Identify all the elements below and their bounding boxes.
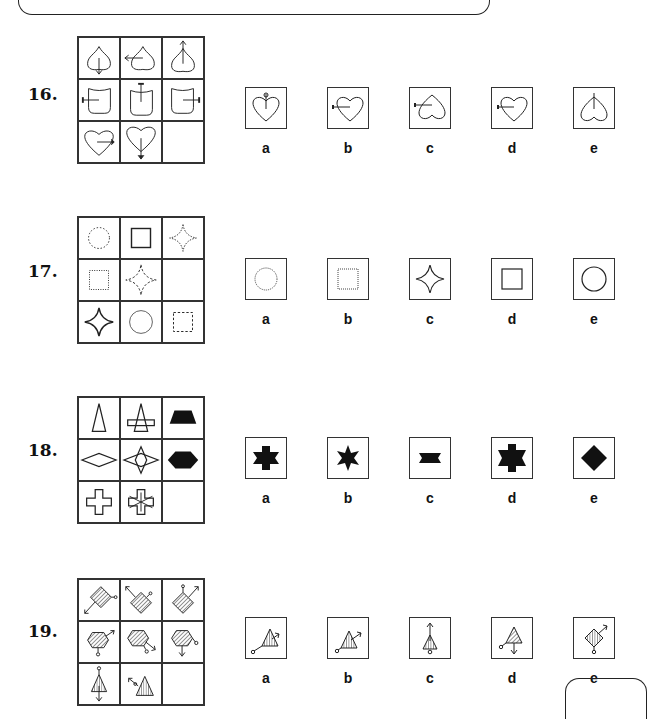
black-trapezoid-icon [162,397,204,439]
dotted-square-icon [78,259,120,301]
black-diamond-icon [577,441,611,475]
top-frame-border [18,0,490,15]
black-hexagon-icon [162,439,204,481]
question-number-16: 16. [28,84,58,104]
option-19-e[interactable]: e [573,617,615,686]
heart-arrow-left-icon [331,91,365,125]
hatched-hexagon-arrow-se-icon [120,621,162,663]
black-cross-star-icon [249,441,283,475]
dashed-star-icon [120,259,162,301]
heart-arrow-left-small-icon [495,91,529,125]
option-18-a[interactable]: a [245,437,287,506]
hatched-hexagon-arrow-s-icon [162,621,204,663]
option-label: c [409,140,451,156]
inverted-heart-arrow-up-icon [577,91,611,125]
option-label: d [491,490,533,506]
option-label: b [327,490,369,506]
option-label: d [491,311,533,327]
option-label: b [327,140,369,156]
heart-arrow-down-icon [120,121,162,163]
option-label: c [409,311,451,327]
hatched-triangle-arrow-nw-icon [120,663,162,705]
question-18-grid [77,396,205,524]
option-label: c [409,490,451,506]
spade-arrow-left-icon [120,37,162,79]
option-label: c [409,670,451,686]
option-label: a [245,140,287,156]
option-label: e [573,140,615,156]
hatched-diamond-arrow-nw-icon [120,579,162,621]
option-label: b [327,670,369,686]
question-19-grid [77,578,205,706]
option-label: d [491,140,533,156]
dashed-square-icon [162,301,204,343]
empty-cell [162,663,204,705]
question-number-17: 17. [28,261,58,281]
dotted-star-icon [162,217,204,259]
hatched-triangle-circle-sw-icon [249,621,283,655]
option-17-a[interactable]: a [245,258,287,327]
cross-outline-icon [78,481,120,523]
hatched-diamond-arrow-sw-icon [78,579,120,621]
option-16-a[interactable]: a [245,87,287,156]
spade-arrow-down-icon [78,37,120,79]
spade-arrow-up-icon [162,37,204,79]
option-17-e[interactable]: e [573,258,615,327]
black-cross-star-large-icon [495,441,529,475]
hatched-diamond-arrow-ne-icon [162,579,204,621]
cross-with-star-icon [120,481,162,523]
heart-arrow-up-icon [249,91,283,125]
option-16-c[interactable]: c [409,87,451,156]
solid-square-icon [495,262,529,296]
shield-arrow-up-icon [120,79,162,121]
question-number-19: 19. [28,621,58,641]
option-17-c[interactable]: c [409,258,451,327]
dotted-square-icon [331,262,365,296]
option-18-c[interactable]: c [409,437,451,506]
option-label: e [573,490,615,506]
heart-arrow-right-icon [78,121,120,163]
diamond-with-star-icon [120,439,162,481]
hatched-diamond-arrow-ne-icon [577,621,611,655]
empty-cell [162,121,204,163]
hatched-triangle-arrow-ne-icon [331,621,365,655]
option-label: d [491,670,533,686]
diag-hatched-triangle-arrow-down-icon [495,621,529,655]
option-label: a [245,670,287,686]
option-label: b [327,311,369,327]
question-16-grid [77,36,205,164]
solid-circle-icon [577,262,611,296]
black-bowtie-bar-icon [413,441,447,475]
option-18-e[interactable]: e [573,437,615,506]
triangle-outline-icon [78,397,120,439]
solid-star-icon [78,301,120,343]
dotted-circle-icon [249,262,283,296]
option-label: a [245,490,287,506]
option-17-d[interactable]: d [491,258,533,327]
option-label: e [573,311,615,327]
question-number-18: 18. [28,440,58,460]
solid-star-icon [413,262,447,296]
shield-arrow-right-icon [162,79,204,121]
hatched-triangle-arrow-s-icon [78,663,120,705]
question-17-grid [77,216,205,344]
hatched-triangle-arrow-up-icon [413,621,447,655]
option-18-d[interactable]: d [491,437,533,506]
option-19-c[interactable]: c [409,617,451,686]
option-16-d[interactable]: d [491,87,533,156]
thin-circle-icon [120,301,162,343]
dotted-circle-icon [78,217,120,259]
inverted-heart-arrow-left-icon [413,91,447,125]
hatched-hexagon-arrow-ne-icon [78,621,120,663]
option-19-b[interactable]: b [327,617,369,686]
bottom-frame-border [565,678,647,719]
option-label: a [245,311,287,327]
option-17-b[interactable]: b [327,258,369,327]
option-18-b[interactable]: b [327,437,369,506]
option-19-a[interactable]: a [245,617,287,686]
option-19-d[interactable]: d [491,617,533,686]
empty-cell [162,481,204,523]
option-16-b[interactable]: b [327,87,369,156]
diamond-outline-icon [78,439,120,481]
option-16-e[interactable]: e [573,87,615,156]
